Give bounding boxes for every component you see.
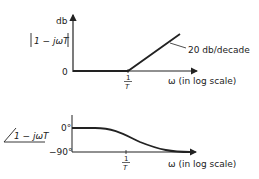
mag-tick-num: 1: [126, 74, 130, 82]
phase-x-axis-label: ω (in log scale): [168, 159, 236, 169]
phase-tick-den: T: [123, 164, 128, 172]
db-label: db: [56, 16, 68, 26]
mag-tick-den: T: [125, 83, 130, 91]
magnitude-label: 1 − jωT: [34, 36, 70, 46]
slope-leader: [170, 43, 186, 48]
mag-x-axis-label: ω (in log scale): [168, 76, 236, 86]
mag-zero-label: 0: [62, 67, 68, 77]
phase-label: 1 − jωT: [14, 131, 50, 141]
bode-diagram: db 1 − jωT 0 1 T 20 db/decade ω (in log …: [0, 0, 259, 179]
phase-zero-label: 0°: [61, 123, 71, 133]
mag-asymptote: [73, 34, 180, 71]
phase-curve: [72, 128, 190, 152]
phase-tick-num: 1: [124, 155, 128, 163]
slope-label: 20 db/decade: [188, 45, 250, 55]
magnitude-plot: db 1 − jωT 0 1 T 20 db/decade ω (in log …: [31, 15, 250, 91]
phase-plot: 1 − jωT 0° −90° 1 T ω (in log scale): [4, 115, 236, 172]
phase-neg90-label: −90°: [49, 147, 73, 157]
